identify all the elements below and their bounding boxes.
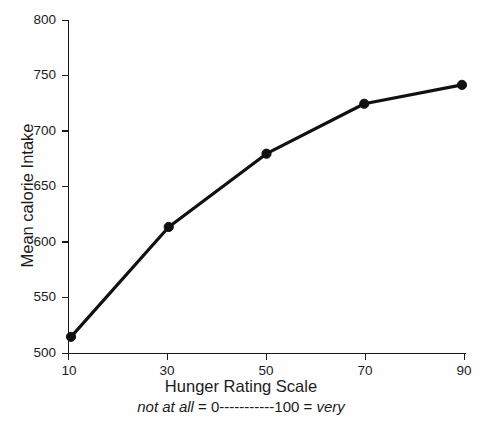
data-point bbox=[164, 222, 173, 231]
x-axis-subtitle-anchor-low: not at all bbox=[137, 398, 194, 415]
x-axis-subtitle-anchor-high: very bbox=[316, 398, 344, 415]
x-axis-subtitle-scale: = 0-----------100 = bbox=[194, 398, 317, 415]
data-point bbox=[457, 80, 466, 89]
x-axis-title: Hunger Rating Scale bbox=[0, 377, 482, 396]
x-tick-label: 50 bbox=[258, 364, 273, 378]
y-axis-title: Mean calorie Intake bbox=[18, 91, 37, 301]
y-tick-label: 800 bbox=[18, 13, 56, 27]
x-tick-label: 70 bbox=[357, 364, 372, 378]
y-tick-label: 500 bbox=[18, 346, 56, 360]
data-point bbox=[360, 99, 369, 108]
data-point bbox=[262, 149, 271, 158]
x-axis-subtitle: not at all = 0-----------100 = very bbox=[0, 398, 482, 415]
chart-container: 800 750 700 650 600 550 500 10 30 50 70 … bbox=[0, 0, 482, 435]
x-tick-label: 90 bbox=[456, 364, 471, 378]
x-tick-label: 30 bbox=[159, 364, 174, 378]
x-tick-label: 10 bbox=[61, 364, 76, 378]
y-tick-marks bbox=[62, 21, 69, 354]
x-tick-marks bbox=[69, 354, 465, 361]
series-markers bbox=[66, 80, 466, 341]
series-line-mean-calorie-intake bbox=[71, 85, 462, 337]
data-point bbox=[66, 332, 75, 341]
y-tick-label: 750 bbox=[18, 68, 56, 82]
